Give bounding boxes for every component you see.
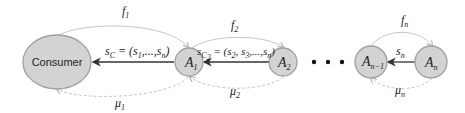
mu1-label: μ1 [114,96,125,112]
dot [340,60,344,64]
mu2-arc [190,77,283,88]
dot [312,60,316,64]
ellipsis-dots [312,60,344,64]
an-minus-1-node: An−1 [355,46,387,78]
mu2-label: μ2 [229,84,240,100]
f2-label: f2 [231,18,238,34]
sn-label: sn [396,44,405,60]
fn-arc [372,32,432,46]
dot [326,60,330,64]
supply-chain-diagram: Consumer A1 A2 An−1 An f1 f2 fn μ1 μ2 μn… [0,0,465,113]
consumer-node: Consumer [23,35,91,89]
mun-label: μn [394,83,405,99]
sc-label: sC = (s1,...,sn) [105,44,169,60]
an-node: An [415,46,447,78]
f1-label: f1 [122,4,129,20]
consumer-label: Consumer [32,56,83,68]
sc2-label: sC2 = (s2, s3,...,sn) [197,45,275,62]
mun-arc [371,78,432,89]
fn-label: fn [401,13,408,29]
